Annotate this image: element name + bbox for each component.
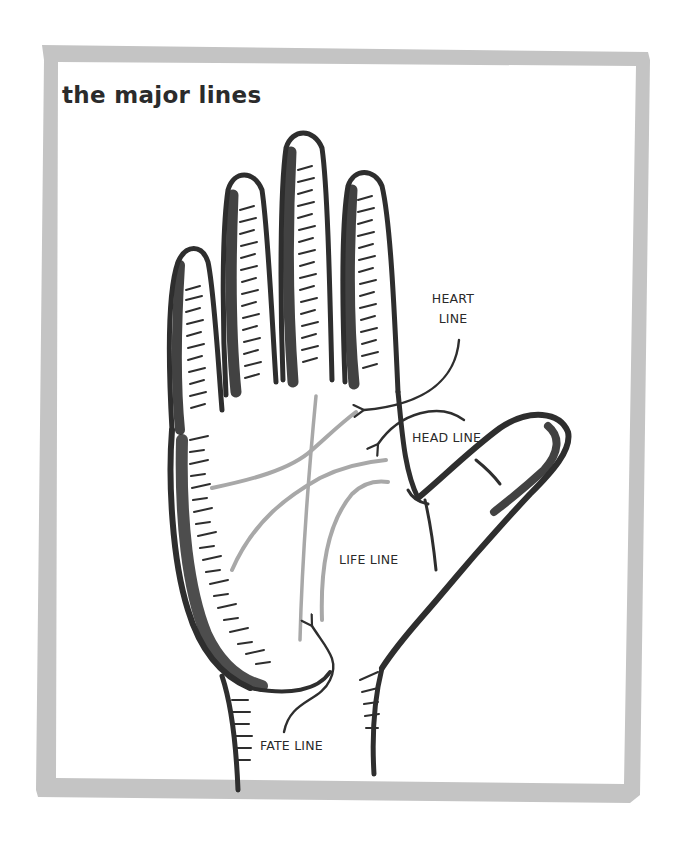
fate-line-label: FATE LINE — [260, 736, 323, 756]
heart-line-label-line1: HEART — [424, 289, 482, 309]
fate-line — [300, 396, 316, 640]
life-line-label: LIFE LINE — [339, 550, 398, 570]
heart-line — [212, 412, 356, 488]
heart-line-label: HEART LINE — [424, 289, 482, 329]
head-line-label: HEAD LINE — [412, 428, 481, 448]
palm-lines — [212, 396, 388, 640]
wrist-right — [373, 668, 382, 774]
hand-illustration — [0, 0, 688, 844]
heart-line-arrow — [364, 340, 459, 410]
thumb — [382, 415, 569, 668]
heart-line-label-line2: LINE — [424, 309, 482, 329]
wrist-left — [222, 676, 238, 790]
